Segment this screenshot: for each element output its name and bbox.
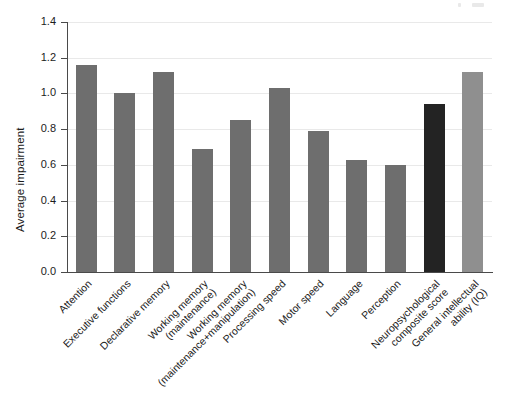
bar-chart-figure: Average impairment 0.00.20.40.60.81.01.2… bbox=[0, 0, 512, 396]
x-axis-category-labels: AttentionExecutive functionsDeclarative … bbox=[0, 0, 512, 396]
